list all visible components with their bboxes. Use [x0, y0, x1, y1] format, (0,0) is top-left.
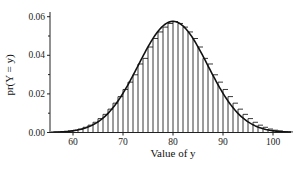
- x-tick-label: 60: [68, 137, 78, 147]
- x-tick-label: 100: [266, 137, 281, 147]
- x-tick-label: 90: [218, 137, 228, 147]
- y-tick-label: 0.02: [28, 89, 45, 99]
- bars: [53, 22, 293, 133]
- y-tick-label: 0.00: [28, 128, 45, 138]
- y-tick-label: 0.06: [28, 12, 45, 22]
- probability-chart: 0.000.020.040.06 60708090100 Value of y …: [0, 0, 299, 169]
- y-axis-label: pr(Y = y): [3, 54, 16, 96]
- x-axis-label: Value of y: [150, 147, 196, 159]
- y-tick-label: 0.04: [28, 50, 45, 60]
- x-tick-label: 80: [168, 137, 178, 147]
- x-ticks: 60708090100: [68, 133, 280, 148]
- x-tick-label: 70: [118, 137, 128, 147]
- y-ticks: 0.000.020.040.06: [28, 12, 50, 138]
- approximating-curve: [51, 21, 291, 132]
